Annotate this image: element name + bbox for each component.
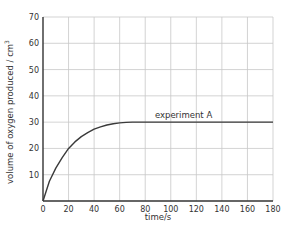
y-tick-label: 40 (29, 92, 39, 101)
series-lines (43, 122, 273, 201)
x-axis-label: time/s (145, 212, 172, 222)
x-tick-label: 180 (265, 205, 280, 214)
y-tick-label: 30 (29, 118, 39, 127)
y-tick-label: 70 (29, 13, 39, 22)
y-axis-label-superscript: 3 (3, 40, 10, 44)
x-tick-label: 40 (89, 205, 99, 214)
y-tick-label: 10 (29, 171, 39, 180)
annotations: experiment A (155, 110, 213, 120)
x-tick-label: 20 (63, 205, 73, 214)
grid-lines (43, 17, 273, 201)
line-chart: 02040608010012014016018010203040506070 e… (0, 0, 290, 235)
y-axis-label-text: volume of oxygen produced / cm (5, 44, 15, 184)
x-tick-label: 60 (115, 205, 125, 214)
series-line-experiment-a (43, 122, 273, 201)
axes (43, 17, 273, 201)
x-tick-label: 140 (214, 205, 229, 214)
x-tick-label: 160 (240, 205, 255, 214)
y-tick-label: 50 (29, 66, 39, 75)
y-tick-label: 60 (29, 39, 39, 48)
y-axis-label: volume of oxygen produced / cm3 (3, 40, 15, 184)
x-tick-label: 0 (40, 205, 45, 214)
series-annotation-label: experiment A (155, 110, 213, 120)
x-tick-label: 120 (189, 205, 204, 214)
y-tick-label: 20 (29, 144, 39, 153)
